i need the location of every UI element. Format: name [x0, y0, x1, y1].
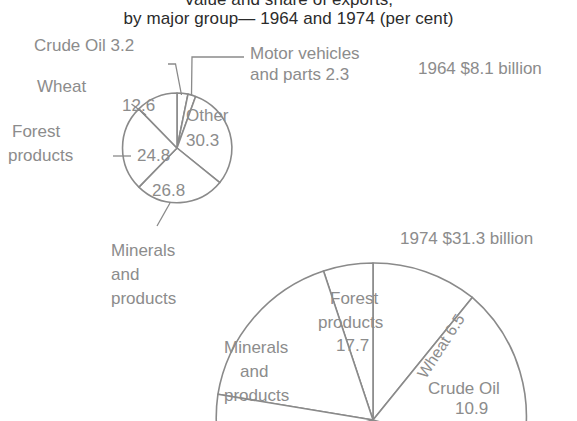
pie1964-label-motor-vehicles-line1: Motor vehicles: [250, 43, 360, 64]
pie1964-label-other: Other: [186, 105, 229, 126]
pie1974-label-forest-products-line2: products: [318, 312, 383, 333]
pie1974-label-minerals-line2: and: [240, 361, 268, 382]
pie1974-value-crude-oil: 10.9: [455, 399, 488, 419]
pie1974-value-forest-products: 17.7: [336, 336, 369, 356]
pie1964-leader-crude-oil: [168, 64, 182, 95]
pie1964-label-minerals-line1: Minerals: [111, 240, 175, 261]
pie1974-label-forest-products-line1: Forest: [330, 288, 378, 309]
pie1964-value-forest-products: 24.8: [137, 146, 170, 166]
pie1964-label-motor-vehicles-line2: and parts 2.3: [250, 64, 349, 85]
pie1964-leader-motor-vehicles: [192, 57, 245, 95]
pie1974-label-crude-oil: Crude Oil: [428, 378, 500, 399]
pie1964-caption: 1964 $8.1 billion: [418, 58, 542, 79]
pie1974-label-minerals-line3: products: [224, 385, 289, 406]
pie1964-label-minerals-line2: and: [111, 264, 139, 285]
exports-pie-figure: Value and share of exports, by major gro…: [0, 0, 577, 421]
pie1964-value-minerals: 26.8: [152, 181, 185, 201]
pie1964-leader-minerals: [157, 203, 170, 226]
pie1964-label-wheat: Wheat: [37, 76, 86, 97]
pie1964-label-crude-oil: Crude Oil 3.2: [34, 35, 134, 56]
pie1964-value-other: 30.3: [186, 131, 219, 151]
pie1964-value-wheat: 12.6: [122, 96, 155, 116]
pie1964-label-forest-products-line2: products: [8, 145, 73, 166]
pie1974-caption: 1974 $31.3 billion: [400, 228, 533, 249]
pie1974-label-minerals-line1: Minerals: [224, 337, 288, 358]
pie1964-label-forest-products-line1: Forest: [12, 121, 60, 142]
pie1964-label-minerals-line3: products: [111, 288, 176, 309]
